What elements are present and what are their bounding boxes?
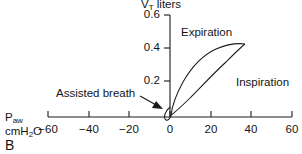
y-axis-group [164, 15, 170, 117]
annotation-arrow-head [152, 101, 163, 109]
x-axis-title-unit-pre: cmH [5, 125, 29, 137]
x-axis-title-line1: Paw [5, 112, 23, 124]
y-axis-title-unit: liters [157, 0, 181, 10]
x-axis-title-unit-subscript: 2 [29, 130, 33, 139]
assisted-breath-label: Assisted breath [56, 88, 135, 100]
x-tick-label--20: −20 [109, 124, 149, 136]
panel-letter: B [5, 138, 14, 152]
y-tick-label-0-4: 0.4 [118, 42, 160, 54]
expiration-label: Expiration [181, 27, 232, 39]
y-tick-label-0-2: 0.2 [118, 75, 160, 87]
x-axis-title-symbol: P [5, 111, 13, 123]
x-tick-label--40: −40 [69, 124, 109, 136]
x-axis-title-line2: cmH2O [5, 126, 42, 138]
pressure-volume-loop [165, 44, 246, 121]
x-tick-label-60: 60 [272, 124, 302, 136]
ventilator-pressure-volume-loop-figure: VT liters 0.6 0.4 0.2 −60 −40 −20 0 20 4… [0, 0, 302, 154]
x-axis-title-unit-post: O [33, 125, 42, 137]
x-tick-label-20: 20 [191, 124, 231, 136]
inspiration-limb [171, 44, 245, 116]
x-tick-label-0: 0 [150, 124, 190, 136]
inspiration-label: Inspiration [236, 77, 289, 89]
y-tick-label-0-6: 0.6 [118, 9, 160, 21]
assisted-breath-annotation-arrow [140, 96, 163, 109]
x-tick-label-40: 40 [231, 124, 271, 136]
x-axis-title-subscript: aw [13, 116, 23, 125]
